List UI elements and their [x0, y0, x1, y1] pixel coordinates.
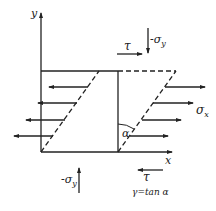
angle-label: α — [122, 128, 129, 139]
diagram-canvas — [0, 0, 216, 211]
tau-label-bottom: τ — [143, 171, 150, 183]
formula-label: γ=tan α — [132, 188, 169, 197]
y-axis-label: y — [31, 8, 37, 19]
sigma-x-label: σx — [196, 104, 209, 119]
x-axis-label: x — [165, 155, 171, 166]
deformed-left-edge — [41, 71, 99, 152]
tau-label-top: τ — [124, 40, 131, 52]
sigma-y-label-top: -σy — [150, 34, 166, 48]
sigma-y-label-bottom: -σy — [61, 174, 77, 188]
